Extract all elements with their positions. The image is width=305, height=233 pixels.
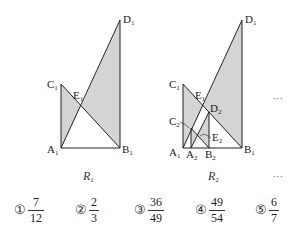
label-e1: E1 xyxy=(73,89,84,103)
figure-r1: D1 C1 E1 A1 B1 R1 xyxy=(47,13,135,184)
label-e1: E1 xyxy=(195,89,206,103)
figures-canvas: D1 C1 E1 A1 B1 R1 D1 C1 xyxy=(0,0,305,190)
numerator: 2 xyxy=(90,196,98,209)
numerator: 36 xyxy=(149,196,163,209)
label-d1: D1 xyxy=(245,13,257,27)
label-a1: A1 xyxy=(169,146,181,160)
numerator: 7 xyxy=(32,196,40,209)
ellipsis-captions: ··· xyxy=(273,171,283,182)
ellipsis-figures: ··· xyxy=(273,93,283,104)
choice-fraction: 36 49 xyxy=(149,196,163,225)
label-d1: D1 xyxy=(123,13,135,27)
choice-fraction: 7 12 xyxy=(29,196,43,225)
choice-marker: ② xyxy=(75,202,87,218)
label-e2: E2 xyxy=(212,131,223,145)
label-b1: B1 xyxy=(244,143,255,157)
label-b1: B1 xyxy=(122,143,133,157)
label-c1: C1 xyxy=(169,78,180,92)
choice-fraction: 6 7 xyxy=(270,196,278,225)
caption-r1: R1 xyxy=(82,169,94,184)
choice-2[interactable]: ② 2 3 xyxy=(75,190,98,230)
choice-fraction: 2 3 xyxy=(90,196,98,225)
shaded-triangle-e1d1b1 xyxy=(81,20,120,148)
label-c2: C2 xyxy=(169,115,180,129)
choice-5[interactable]: ⑤ 6 7 xyxy=(255,190,278,230)
figure-r2: D1 C1 E1 D2 C2 E2 A1 A2 B2 B1 R2 ··· ··· xyxy=(169,13,283,184)
numerator: 6 xyxy=(270,196,278,209)
choice-marker: ① xyxy=(14,202,26,218)
choice-fraction: 49 54 xyxy=(210,196,224,225)
label-a1: A1 xyxy=(47,143,59,157)
denominator: 12 xyxy=(29,212,43,225)
label-a2: A2 xyxy=(186,148,198,162)
choice-3[interactable]: ③ 36 49 xyxy=(134,190,163,230)
label-c1: C1 xyxy=(47,78,58,92)
denominator: 54 xyxy=(210,212,224,225)
choice-marker: ③ xyxy=(134,202,146,218)
denominator: 3 xyxy=(90,212,98,225)
label-b2: B2 xyxy=(205,148,216,162)
choice-marker: ④ xyxy=(195,202,207,218)
choice-1[interactable]: ① 7 12 xyxy=(14,190,43,230)
denominator: 7 xyxy=(270,212,278,225)
caption-r2: R2 xyxy=(207,169,219,184)
answer-choices: ① 7 12 ② 2 3 ③ 36 49 ④ 49 54 ⑤ 6 xyxy=(0,190,305,230)
choice-marker: ⑤ xyxy=(255,202,267,218)
choice-4[interactable]: ④ 49 54 xyxy=(195,190,224,230)
numerator: 49 xyxy=(210,196,224,209)
denominator: 49 xyxy=(149,212,163,225)
